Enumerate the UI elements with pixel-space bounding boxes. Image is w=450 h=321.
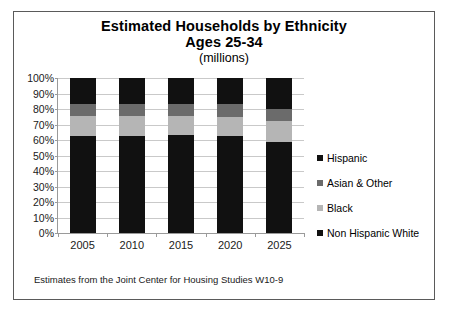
legend-item[interactable]: Asian & Other: [317, 177, 447, 189]
chart-title-line2: Ages 25-34: [14, 34, 434, 50]
bar-segment[interactable]: [70, 136, 96, 233]
x-tick-mark: [107, 233, 108, 237]
stacked-bar[interactable]: [217, 78, 243, 233]
y-tick-label: 40%: [33, 165, 54, 177]
bar-segment[interactable]: [217, 104, 243, 116]
stacked-bar[interactable]: [119, 78, 145, 233]
chart-legend: HispanicAsian & OtherBlackNon Hispanic W…: [317, 152, 447, 252]
bar-group[interactable]: [156, 78, 205, 233]
plot-wrapper: 0%10%20%30%40%50%60%70%80%90%100% 200520…: [57, 78, 303, 233]
y-tick-label: 50%: [33, 150, 54, 162]
bar-segment[interactable]: [266, 121, 292, 142]
chart-title-line1: Estimated Households by Ethnicity: [14, 18, 434, 34]
bar-segment[interactable]: [266, 78, 292, 109]
x-tick-label: 2025: [267, 239, 291, 251]
bar-segment[interactable]: [119, 104, 145, 116]
legend-item[interactable]: Non Hispanic White: [317, 227, 447, 239]
x-tick-label: 2010: [120, 239, 144, 251]
plot-area: 0%10%20%30%40%50%60%70%80%90%100% 200520…: [57, 78, 304, 234]
y-tick-label: 100%: [27, 72, 54, 84]
y-tick-label: 30%: [33, 181, 54, 193]
legend-item[interactable]: Hispanic: [317, 152, 447, 164]
x-tick-mark: [255, 233, 256, 237]
stacked-bar[interactable]: [70, 78, 96, 233]
legend-swatch-icon: [317, 205, 323, 211]
bar-segment[interactable]: [217, 136, 243, 233]
y-tick-label: 90%: [33, 88, 54, 100]
bar-segment[interactable]: [70, 78, 96, 104]
y-tick-label: 10%: [33, 212, 54, 224]
bar-group[interactable]: [107, 78, 156, 233]
stacked-bar[interactable]: [266, 78, 292, 233]
bar-group[interactable]: [206, 78, 255, 233]
chart-frame: Estimated Households by Ethnicity Ages 2…: [13, 11, 435, 300]
chart-footnote: Estimates from the Joint Center for Hous…: [34, 274, 283, 285]
bar-segment[interactable]: [266, 109, 292, 121]
legend-label: Non Hispanic White: [327, 227, 419, 239]
x-tick-label: 2005: [70, 239, 94, 251]
bar-segment[interactable]: [119, 136, 145, 233]
bar-segment[interactable]: [266, 142, 292, 233]
bar-segment[interactable]: [119, 78, 145, 104]
x-tick-label: 2015: [169, 239, 193, 251]
bar-segment[interactable]: [217, 78, 243, 104]
bar-segment[interactable]: [70, 116, 96, 136]
legend-label: Asian & Other: [327, 177, 392, 189]
bar-segment[interactable]: [70, 104, 96, 116]
x-tick-mark: [58, 233, 59, 237]
chart-subtitle: (millions): [14, 51, 434, 65]
legend-item[interactable]: Black: [317, 202, 447, 214]
y-tick-label: 20%: [33, 196, 54, 208]
x-tick-mark: [304, 233, 305, 237]
chart-title-block: Estimated Households by Ethnicity Ages 2…: [14, 18, 434, 65]
x-tick-mark: [206, 233, 207, 237]
x-tick-label: 2020: [218, 239, 242, 251]
legend-swatch-icon: [317, 230, 323, 236]
bar-segment[interactable]: [217, 117, 243, 136]
stacked-bar[interactable]: [168, 78, 194, 233]
bar-group[interactable]: [255, 78, 304, 233]
bar-segment[interactable]: [168, 116, 194, 135]
legend-swatch-icon: [317, 155, 323, 161]
x-tick-mark: [156, 233, 157, 237]
y-tick-label: 70%: [33, 119, 54, 131]
legend-label: Black: [327, 202, 353, 214]
y-tick-label: 80%: [33, 103, 54, 115]
y-tick-label: 0%: [39, 227, 54, 239]
legend-swatch-icon: [317, 180, 323, 186]
bar-segment[interactable]: [168, 104, 194, 116]
legend-label: Hispanic: [327, 152, 367, 164]
bar-group[interactable]: [58, 78, 107, 233]
y-tick-label: 60%: [33, 134, 54, 146]
bar-segment[interactable]: [119, 116, 145, 136]
bar-segment[interactable]: [168, 78, 194, 104]
bar-segment[interactable]: [168, 135, 194, 233]
